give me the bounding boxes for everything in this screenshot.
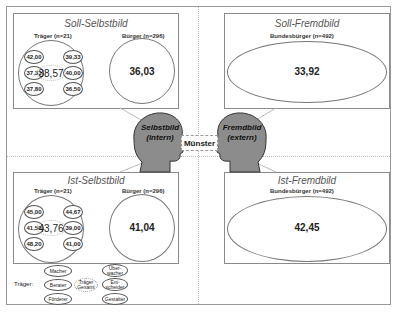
legend-berater: Berater — [44, 279, 72, 291]
selbstbild-line2: (intern) — [132, 133, 188, 143]
legend-gestalter: Gestalter — [102, 293, 128, 305]
legend-foerderer: Förderer — [44, 293, 72, 305]
legend-title: Träger: — [14, 281, 33, 287]
selbstbild-line1: Selbstbild — [132, 123, 188, 133]
fremdbild-line1: Fremdbild — [214, 123, 270, 133]
selbstbild-label: Selbstbild (intern) — [132, 123, 188, 143]
fremdbild-line2: (extern) — [214, 133, 270, 143]
legend-entscheider: Ent- scheider — [102, 278, 128, 291]
muenster-box: Münster — [181, 135, 218, 151]
legend-ueberwacher: Über- wacher — [102, 264, 128, 277]
legend-traeger-gesamt: Träger Gesamt — [74, 278, 98, 292]
fremdbild-label: Fremdbild (extern) — [214, 123, 270, 143]
legend-macher: Macher — [44, 265, 72, 277]
